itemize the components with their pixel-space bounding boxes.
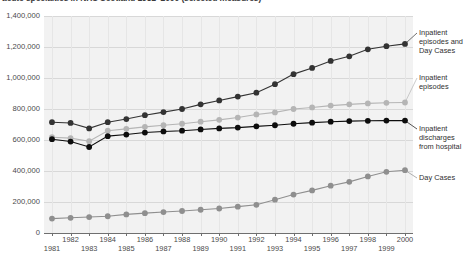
data-point — [309, 120, 315, 126]
data-point — [384, 100, 390, 106]
data-point — [291, 192, 297, 198]
data-point — [291, 71, 297, 77]
data-point — [68, 120, 74, 126]
data-point — [68, 139, 74, 145]
data-point — [198, 207, 204, 213]
data-point — [198, 127, 204, 133]
data-point — [365, 46, 371, 52]
data-point — [253, 112, 259, 118]
series-line — [52, 121, 405, 147]
data-point — [123, 132, 129, 138]
data-point — [105, 213, 111, 219]
data-point — [216, 117, 222, 123]
data-point — [49, 216, 55, 222]
legend-label: Inpatient episodes — [419, 73, 464, 91]
data-point — [272, 81, 278, 87]
data-point — [384, 118, 390, 124]
data-point — [328, 58, 334, 64]
data-point — [86, 125, 92, 131]
data-point — [346, 101, 352, 107]
data-point — [309, 105, 315, 111]
data-point — [309, 65, 315, 71]
data-point — [49, 136, 55, 142]
data-point — [346, 118, 352, 124]
data-point — [142, 130, 148, 136]
data-point — [235, 115, 241, 121]
data-point — [142, 112, 148, 118]
data-point — [253, 90, 259, 96]
data-point — [123, 212, 129, 218]
series-inpatient-episodes-and-day-cases — [49, 41, 408, 131]
data-point — [309, 187, 315, 193]
data-point — [198, 119, 204, 125]
data-point — [346, 53, 352, 59]
data-point — [328, 103, 334, 109]
data-point — [384, 169, 390, 175]
data-point — [328, 119, 334, 125]
data-point — [216, 98, 222, 104]
series-inpatient-episodes — [49, 100, 408, 145]
data-point — [272, 110, 278, 116]
data-point — [179, 128, 185, 134]
data-point — [272, 197, 278, 203]
data-point — [235, 125, 241, 131]
data-point — [346, 179, 352, 185]
data-point — [49, 119, 55, 125]
data-point — [161, 129, 167, 135]
data-point — [198, 101, 204, 107]
data-point — [216, 206, 222, 212]
data-point — [86, 214, 92, 220]
legend-label: Inpatient episodes and Day Cases — [419, 28, 464, 56]
legend-leader-line — [405, 121, 417, 129]
data-point — [328, 183, 334, 189]
data-point — [105, 133, 111, 139]
data-point — [179, 106, 185, 112]
legend-leader-line — [405, 78, 417, 102]
data-point — [68, 215, 74, 221]
data-point — [123, 126, 129, 132]
legend-label: Inpatient discharges from hospital — [419, 124, 464, 152]
data-point — [365, 118, 371, 124]
data-point — [161, 209, 167, 215]
data-point — [365, 174, 371, 180]
data-point — [235, 94, 241, 100]
legend-leader-line — [405, 33, 417, 44]
data-point — [142, 210, 148, 216]
data-point — [253, 123, 259, 129]
data-point — [142, 124, 148, 130]
data-point — [105, 119, 111, 125]
legend-label: Day Cases — [419, 173, 464, 182]
data-point — [216, 125, 222, 131]
data-point — [291, 121, 297, 127]
data-point — [86, 138, 92, 144]
data-point — [402, 167, 408, 173]
data-point — [161, 109, 167, 115]
data-point — [365, 101, 371, 107]
data-point — [86, 144, 92, 150]
data-point — [253, 202, 259, 208]
data-point — [161, 122, 167, 128]
data-point — [105, 128, 111, 134]
data-point — [179, 208, 185, 214]
data-point — [123, 116, 129, 122]
legend-leader-line — [405, 170, 417, 178]
series-day-cases — [49, 167, 408, 221]
series-layer — [0, 0, 464, 257]
data-point — [179, 121, 185, 127]
data-point — [272, 122, 278, 128]
series-line — [52, 170, 405, 218]
data-point — [291, 106, 297, 112]
data-point — [235, 204, 241, 210]
data-point — [402, 118, 408, 124]
chart-container: acute specialties in NHS Scotland 1981–2… — [0, 0, 464, 257]
data-point — [384, 43, 390, 49]
